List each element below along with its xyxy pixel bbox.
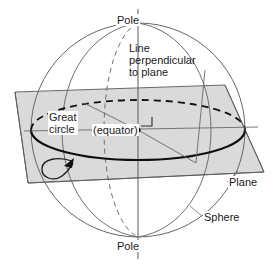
label-plane: Plane xyxy=(228,176,258,188)
figure-canvas: Pole Pole Line perpendicular to plane Gr… xyxy=(0,0,277,265)
label-equator: (equator) xyxy=(92,124,139,136)
label-sphere: Sphere xyxy=(203,211,240,223)
label-great-circle: Great circle xyxy=(48,111,78,135)
label-pole-top: Pole xyxy=(116,14,140,26)
label-line-perpendicular-to-plane: Line perpendicular to plane xyxy=(128,42,197,78)
sphere-label-leader xyxy=(190,206,202,216)
label-pole-bottom: Pole xyxy=(116,240,140,252)
